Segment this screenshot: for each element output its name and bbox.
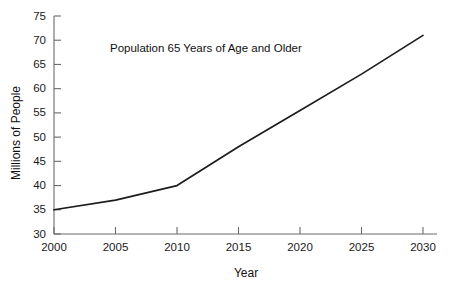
y-axis-tick-label: 75 [33,10,46,22]
y-axis-tick-label: 50 [33,131,46,143]
x-axis-title: Year [234,266,258,280]
x-axis-tick-label: 2010 [164,241,190,253]
x-axis-tick-label: 2015 [226,241,252,253]
x-axis-tick-label: 2000 [41,241,67,253]
y-axis-tick-label: 55 [33,106,46,118]
y-axis-tick-label: 60 [33,82,46,94]
line-chart-figure: 30354045505560657075 2000200520102015202… [0,0,468,286]
y-axis-tick-label: 35 [33,203,46,215]
y-axis-title: Millions of People [9,86,23,180]
y-axis-tick-label: 70 [33,34,46,46]
x-axis-tick-label: 2005 [103,241,129,253]
x-axis-tick-label: 2030 [410,241,436,253]
y-axis-tick-label: 40 [33,179,46,191]
chart-title: Population 65 Years of Age and Older [110,42,302,54]
y-axis-tick-label: 45 [33,155,46,167]
y-axis-tick-label: 30 [33,228,46,240]
y-axis-tick-label: 65 [33,58,46,70]
x-axis-tick-label: 2025 [349,241,375,253]
x-axis-tick-label: 2020 [287,241,313,253]
